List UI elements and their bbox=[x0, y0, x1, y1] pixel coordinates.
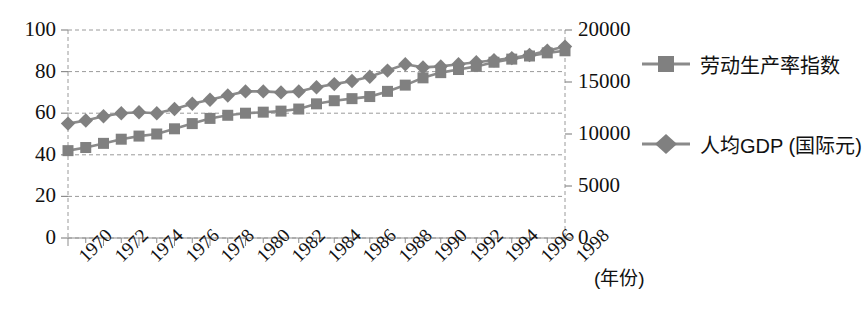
chart-legend: 劳动生产率指数 人均GDP (国际元) bbox=[640, 44, 866, 204]
square-marker-icon bbox=[640, 53, 692, 75]
y-axis-right-tick-label: 10000 bbox=[578, 123, 631, 144]
y-axis-right-tick-label: 15000 bbox=[578, 71, 631, 92]
y-axis-right-tick-label: 5000 bbox=[578, 175, 620, 196]
y-axis-left-tick-label: 40 bbox=[35, 144, 56, 165]
legend-item-labor-productivity-index: 劳动生产率指数 bbox=[640, 44, 866, 84]
legend-label: 劳动生产率指数 bbox=[700, 50, 840, 79]
chart-figure: 020406080100 05000100001500020000 197019… bbox=[0, 0, 866, 320]
y-axis-left-tick-label: 20 bbox=[35, 185, 56, 206]
x-axis-title: (年份) bbox=[594, 269, 645, 288]
legend-item-gdp-per-capita: 人均GDP (国际元) bbox=[640, 124, 866, 164]
chart-series bbox=[61, 39, 572, 130]
y-axis-right-tick-label: 20000 bbox=[578, 19, 631, 40]
y-axis-left-tick-label: 0 bbox=[46, 227, 57, 248]
y-axis-left-tick-label: 80 bbox=[35, 61, 56, 82]
y-axis-left-tick-label: 100 bbox=[25, 19, 57, 40]
legend-label: 人均GDP (国际元) bbox=[700, 130, 862, 159]
y-axis-left-tick-label: 60 bbox=[35, 102, 56, 123]
diamond-marker-icon bbox=[640, 133, 692, 155]
